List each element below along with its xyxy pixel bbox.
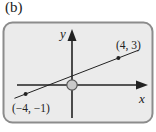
y-axis-label: y [58,26,66,41]
point-label-4-3: (4, 3) [116,39,141,52]
point-neg4-neg1 [24,92,28,96]
origin-marker [67,80,77,90]
graph-diagram: x y (−4, −1) (4, 3) [0,0,156,132]
point-label-neg4-neg1: (−4, −1) [12,102,50,115]
x-axis-label: x [138,91,145,106]
point-4-3 [116,56,120,60]
